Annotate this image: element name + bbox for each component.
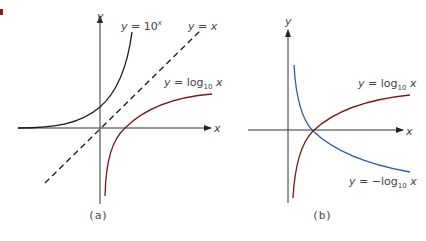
label-log10-a: y = log10 x <box>163 76 223 91</box>
caption-b: (b) <box>312 209 332 222</box>
panel-b: x y y = log10 x y = −log10 x (b) <box>248 15 417 222</box>
curve-exponential <box>18 32 132 128</box>
x-axis-label-a: x <box>213 122 221 135</box>
x-axis-label-b: x <box>405 125 413 138</box>
figure-marker <box>0 9 3 15</box>
label-log10-b: y = log10 x <box>357 77 417 92</box>
label-exponential: y = 10x <box>120 19 163 33</box>
y-axis-label-b: y <box>284 15 292 28</box>
label-neg-log10: y = −log10 x <box>348 175 417 190</box>
panel-a: x y y = 10x y = x y = log10 x (a) <box>18 10 223 222</box>
label-identity: y = x <box>187 20 218 33</box>
curve-identity <box>45 29 202 183</box>
caption-a: (a) <box>88 209 108 222</box>
figure-canvas: x y y = 10x y = x y = log10 x (a) x y y … <box>0 0 426 241</box>
y-axis-label-a: y <box>96 10 104 23</box>
